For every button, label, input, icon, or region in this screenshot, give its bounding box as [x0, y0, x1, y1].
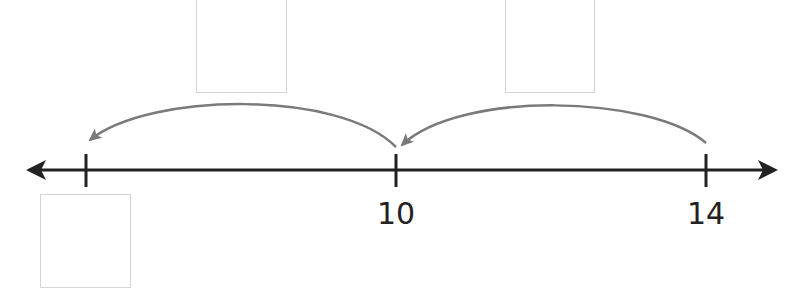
answer-box-end-point[interactable] [40, 194, 131, 288]
tick-label-10: 10 [377, 196, 415, 231]
answer-box-jump-second[interactable] [196, 0, 287, 93]
jump-arc-14-to-10 [402, 105, 706, 145]
number-line-diagram: 10 14 [0, 0, 800, 295]
answer-box-jump-first[interactable] [505, 0, 595, 93]
tick-label-14: 14 [687, 196, 725, 231]
jump-arc-10-to-unknown [90, 104, 396, 147]
